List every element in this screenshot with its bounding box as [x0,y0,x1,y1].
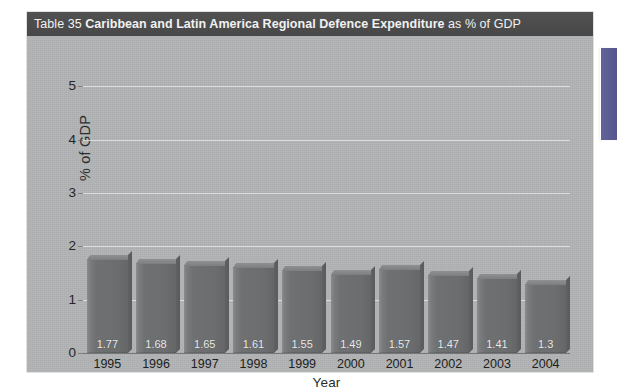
y-tick-label: 4 [68,133,76,147]
bar[interactable]: 1.49 [331,274,372,353]
bar[interactable]: 1.61 [233,267,274,353]
bar-slot: 1.49 [327,65,376,353]
x-tick-label: 2001 [375,357,424,371]
bar-slot: 1.3 [521,65,570,353]
bar[interactable]: 1.68 [136,263,177,353]
bar-slot: 1.55 [278,65,327,353]
bar[interactable]: 1.41 [477,278,518,353]
x-axis-title: Year [83,375,570,390]
bar[interactable]: 1.3 [525,284,566,353]
bar-value-label: 1.47 [428,338,469,350]
x-tick-label: 1998 [229,357,278,371]
bar-value-label: 1.65 [184,338,225,350]
scanned-page-background: Table 35 Caribbean and Latin America Reg… [0,0,617,391]
x-tick-label: 2002 [424,357,473,371]
bar[interactable]: 1.47 [428,275,469,353]
x-tick-label: 1999 [278,357,327,371]
x-tick-label: 1997 [180,357,229,371]
plot-area: 012345 1.771.681.651.611.551.491.571.471… [83,65,570,353]
y-tick-label: 2 [68,240,76,254]
axis-baseline [83,353,570,354]
bar-value-label: 1.61 [233,338,274,350]
bar-value-label: 1.49 [331,338,372,350]
x-tick-label: 1996 [132,357,181,371]
bar[interactable]: 1.65 [184,265,225,353]
bar-value-label: 1.55 [282,338,323,350]
x-tick-label: 2004 [521,357,570,371]
bar-value-label: 1.77 [87,338,128,350]
bar[interactable]: 1.77 [87,259,128,353]
caption-prefix: Table 35 [34,17,85,31]
bar[interactable]: 1.55 [282,270,323,353]
figure-caption: Table 35 Caribbean and Latin America Reg… [34,17,521,31]
x-tick-label: 1995 [83,357,132,371]
bar-value-label: 1.41 [477,338,518,350]
bar-series: 1.771.681.651.611.551.491.571.471.411.3 [83,65,570,353]
bar-value-label: 1.57 [379,338,420,350]
caption-suffix: as % of GDP [445,17,521,31]
x-axis-ticks: 1995199619971998199920002001200220032004 [83,357,570,377]
bar-slot: 1.57 [375,65,424,353]
bar-slot: 1.65 [180,65,229,353]
bar-slot: 1.47 [424,65,473,353]
bar-value-label: 1.3 [525,338,566,350]
figure-panel: Table 35 Caribbean and Latin America Reg… [27,12,593,372]
x-tick-label: 2003 [473,357,522,371]
y-tick-label: 3 [68,186,76,200]
bar-value-label: 1.68 [136,338,177,350]
caption-title: Caribbean and Latin America Regional Def… [85,17,444,31]
y-tick-label: 5 [68,80,76,94]
plot-region: % of GDP 012345 1.771.681.651.611.551.49… [27,36,593,372]
bar-slot: 1.77 [83,65,132,353]
y-tick-label: 1 [68,293,76,307]
x-tick-label: 2000 [327,357,376,371]
y-tick-mark [78,353,83,354]
bar[interactable]: 1.57 [379,269,420,353]
bar-slot: 1.68 [132,65,181,353]
figure-caption-bar: Table 35 Caribbean and Latin America Reg… [27,12,593,36]
page-edge-tab-icon [601,48,617,140]
bar-slot: 1.61 [229,65,278,353]
y-tick-label: 0 [68,346,76,360]
bar-slot: 1.41 [473,65,522,353]
